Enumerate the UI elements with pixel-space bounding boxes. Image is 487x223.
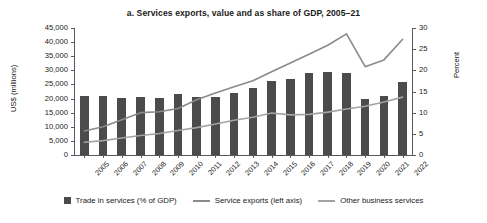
y-axis-left-title: US$ (millions) (9, 65, 18, 112)
x-axis-tick (309, 155, 310, 158)
legend-label: Other business services (340, 196, 423, 205)
legend-item[interactable]: Trade in services (% of GDP) (64, 196, 177, 205)
y-axis-right-tick-label: 0 (419, 151, 423, 159)
plot-area: 05,00010,00015,00020,00025,00030,00035,0… (75, 28, 412, 155)
chart-figure: a. Services exports, value and as share … (0, 0, 487, 223)
x-axis-tick (290, 155, 291, 158)
y-axis-left-tick (71, 113, 74, 114)
y-axis-left-tick (71, 141, 74, 142)
y-axis-right-tick-label: 10 (419, 109, 427, 117)
y-axis-left-tick (71, 28, 74, 29)
legend-item[interactable]: Service exports (left axis) (193, 196, 303, 205)
y-axis-left-tick (71, 155, 74, 156)
x-axis-tick-label: 2018 (338, 160, 355, 177)
chart-legend: Trade in services (% of GDP)Service expo… (0, 196, 487, 205)
x-axis-tick-label: 2020 (375, 160, 392, 177)
x-axis-tick (272, 155, 273, 158)
y-axis-right-tick-label: 15 (419, 88, 427, 96)
y-axis-left-tick-label: 20,000 (45, 95, 68, 103)
x-axis-tick (103, 155, 104, 158)
y-axis-left-tick-label: 40,000 (45, 38, 68, 46)
y-axis-left-tick-label: 5,000 (49, 137, 68, 145)
y-axis-right-tick-label: 20 (419, 66, 427, 74)
y-axis-left-tick-label: 45,000 (45, 24, 68, 32)
y-axis-left-tick-label: 0 (64, 151, 68, 159)
x-axis-tick (365, 155, 366, 158)
y-axis-left-tick-label: 10,000 (45, 123, 68, 131)
x-axis-tick (197, 155, 198, 158)
x-axis-tick (403, 155, 404, 158)
y-axis-left-tick-label: 15,000 (45, 109, 68, 117)
x-axis-line (74, 155, 413, 156)
y-axis-right-tick (413, 113, 416, 114)
y-axis-left-tick (71, 127, 74, 128)
x-axis-tick (122, 155, 123, 158)
x-axis-tick-label: 2017 (319, 160, 336, 177)
x-axis-tick-label: 2005 (94, 160, 111, 177)
line-series (84, 97, 402, 142)
y-axis-left-tick (71, 70, 74, 71)
y-axis-left-tick-label: 25,000 (45, 80, 68, 88)
x-axis-tick-label: 2013 (244, 160, 261, 177)
x-axis-tick (84, 155, 85, 158)
x-axis-tick (159, 155, 160, 158)
y-axis-right-title: Percent (452, 52, 461, 78)
x-axis-tick-label: 2006 (113, 160, 130, 177)
y-axis-right-tick (413, 134, 416, 135)
legend-item[interactable]: Other business services (318, 196, 423, 205)
x-axis-tick (384, 155, 385, 158)
y-axis-left-tick-label: 35,000 (45, 52, 68, 60)
y-axis-right-tick-label: 30 (419, 24, 427, 32)
x-axis-tick-label: 2016 (300, 160, 317, 177)
y-axis-right-tick (413, 49, 416, 50)
x-axis-tick-label: 2015 (281, 160, 298, 177)
x-axis-tick (141, 155, 142, 158)
y-axis-right-tick (413, 155, 416, 156)
legend-label: Service exports (left axis) (215, 196, 303, 205)
legend-swatch-line-icon (193, 200, 210, 202)
x-axis-tick-label: 2012 (225, 160, 242, 177)
x-axis-tick-label: 2010 (188, 160, 205, 177)
x-axis-tick (328, 155, 329, 158)
x-axis-tick-label: 2008 (150, 160, 167, 177)
y-axis-right-tick (413, 28, 416, 29)
y-axis-left-tick (71, 84, 74, 85)
x-axis-tick-label: 2007 (132, 160, 149, 177)
y-axis-right-tick-label: 25 (419, 45, 427, 53)
y-axis-left-tick (71, 42, 74, 43)
legend-swatch-box-icon (64, 197, 71, 204)
x-axis-tick-label: 2011 (206, 160, 222, 176)
legend-label: Trade in services (% of GDP) (76, 196, 177, 205)
y-axis-right-tick (413, 70, 416, 71)
x-axis-tick (346, 155, 347, 158)
y-axis-left-tick-label: 30,000 (45, 66, 68, 74)
line-series-overlay (75, 28, 412, 155)
legend-swatch-line-icon (318, 200, 335, 202)
x-axis-tick (253, 155, 254, 158)
line-series (84, 34, 402, 131)
x-axis-tick-label: 2014 (263, 160, 280, 177)
x-axis-tick-label: 2022 (412, 160, 429, 177)
x-axis-tick-label: 2009 (169, 160, 186, 177)
x-axis-tick (215, 155, 216, 158)
y-axis-right-tick-label: 5 (419, 130, 423, 138)
x-axis-tick-label: 2021 (394, 160, 411, 177)
x-axis-tick (178, 155, 179, 158)
y-axis-right-tick (413, 92, 416, 93)
y-axis-left-tick (71, 99, 74, 100)
chart-title: a. Services exports, value and as share … (0, 8, 487, 18)
x-axis-tick (234, 155, 235, 158)
x-axis-tick-label: 2019 (356, 160, 373, 177)
y-axis-left-tick (71, 56, 74, 57)
